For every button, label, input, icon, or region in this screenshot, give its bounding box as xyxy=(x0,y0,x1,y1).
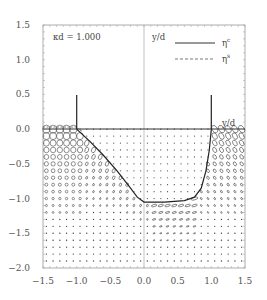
legend-entry-eta-s: ηs xyxy=(222,52,230,64)
x-axis-tick-labels: −1.5−1.0−0.50.00.51.01.5 xyxy=(32,276,252,286)
y-tick-label: 0.0 xyxy=(16,124,31,134)
x-tick-label: 0.5 xyxy=(171,276,186,286)
legend-entry-eta-c: ηc xyxy=(222,36,231,48)
x-tick-label: 1.0 xyxy=(204,276,219,286)
x-tick-label: −1.5 xyxy=(32,276,54,286)
y-tick-label: 1.0 xyxy=(16,55,31,65)
x-tick-label: 1.5 xyxy=(238,276,253,286)
x-tick-label: −0.5 xyxy=(99,276,121,286)
y-tick-label: 0.5 xyxy=(16,89,31,99)
parameter-annotation: κd = 1.000 xyxy=(53,32,101,42)
legend: ηc ηs xyxy=(175,36,231,64)
y-tick-label: 1.5 xyxy=(16,20,31,30)
x-tick-label: −1.0 xyxy=(66,276,88,286)
y-tick-label: −0.5 xyxy=(8,159,30,169)
x-tick-label: 0.0 xyxy=(137,276,152,286)
y-tick-label: −2.0 xyxy=(8,263,30,273)
y-axis-tick-labels: 1.51.00.50.0−0.5−1.0−1.5−2.0 xyxy=(8,20,30,273)
ylabel-inside: y/d xyxy=(151,32,166,42)
y-tick-label: −1.5 xyxy=(8,228,30,238)
y-tick-label: −1.0 xyxy=(8,194,30,204)
vector-field-chart: 1.51.00.50.0−0.5−1.0−1.5−2.0 −1.5−1.0−0.… xyxy=(0,0,267,300)
right-wall-label: y/d xyxy=(221,118,236,128)
